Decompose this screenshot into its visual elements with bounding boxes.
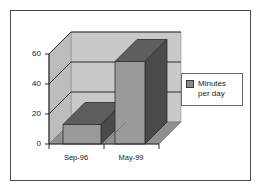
chart-screenshot: 60 40 20 0 Sep-96 May-99 Minutes per day	[0, 0, 263, 193]
legend-color-swatch-icon	[186, 80, 194, 88]
bar-sep-96-front	[63, 125, 101, 145]
legend-entry-minutes-per-day: Minutes per day	[186, 79, 226, 99]
legend: Minutes per day	[181, 73, 243, 106]
y-tick-label-40: 40	[23, 80, 41, 88]
bar-may-99-front	[115, 62, 145, 145]
plot-area: 60 40 20 0 Sep-96 May-99 Minutes per day	[11, 11, 252, 182]
legend-entry-label: Minutes per day	[198, 79, 226, 99]
y-tick-label-60: 60	[23, 50, 41, 58]
y-tick-label-0: 0	[23, 140, 41, 148]
chart-frame: 60 40 20 0 Sep-96 May-99 Minutes per day	[10, 10, 251, 181]
x-tick-label-may-99: May-99	[108, 154, 154, 162]
x-tick-label-sep-96: Sep-96	[53, 154, 99, 162]
y-tick-label-20: 20	[23, 110, 41, 118]
